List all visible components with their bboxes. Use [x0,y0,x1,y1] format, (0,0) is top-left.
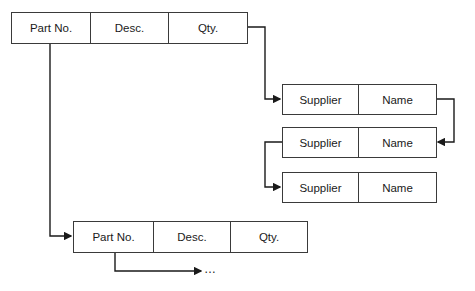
field-supplier: Supplier [283,173,359,202]
arrow-part-to-supplier-1 [247,27,280,99]
supplier-record-3: Supplier Name [282,172,437,203]
field-name: Name [359,85,436,114]
field-part-no: Part No. [12,13,91,43]
arrow-supplier-1-to-2 [436,99,454,142]
part-record-top: Part No. Desc. Qty. [11,12,248,44]
field-name: Name [359,128,436,157]
field-supplier: Supplier [283,128,359,157]
field-desc: Desc. [154,222,231,252]
continuation-ellipsis: … [204,262,216,276]
field-desc: Desc. [91,13,169,43]
arrow-to-continuation [115,252,201,271]
supplier-record-2: Supplier Name [282,127,437,158]
field-name: Name [359,173,436,202]
arrow-supplier-2-to-3 [265,142,282,187]
field-supplier: Supplier [283,85,359,114]
field-part-no: Part No. [74,222,154,252]
field-qty: Qty. [231,222,307,252]
part-record-bottom: Part No. Desc. Qty. [73,221,308,253]
field-qty: Qty. [169,13,247,43]
supplier-record-1: Supplier Name [282,84,437,115]
arrow-part-to-next-part [50,43,71,236]
